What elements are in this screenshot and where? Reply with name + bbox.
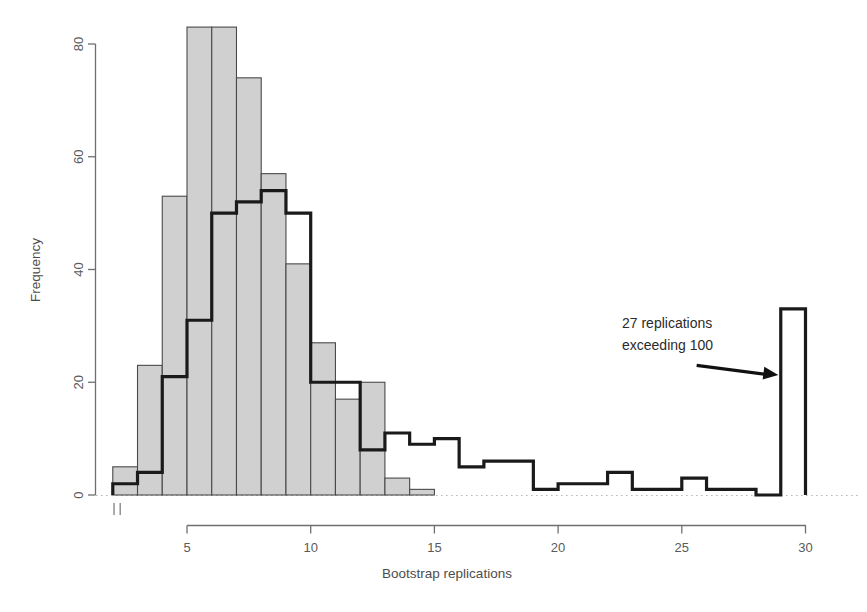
annotation-line-1: 27 replications [622,315,712,331]
y-tick-label: 40 [71,262,86,276]
histogram-bar [261,174,286,495]
histogram-bar [335,399,360,495]
histogram-bar [187,27,212,495]
x-tick-label: 5 [183,540,190,555]
annotation-line-2: exceeding 100 [622,337,713,353]
x-tick-label: 25 [675,540,689,555]
annotation-arrow-shaft [697,365,772,375]
annotation-arrow-icon [697,365,779,379]
histogram-bar [385,478,410,495]
annotation-group: 27 replications exceeding 100 [622,315,778,380]
y-tick-label: 80 [71,37,86,51]
y-tick-label: 60 [71,150,86,164]
histogram-figure: 020406080 51015202530 Frequency Bootstra… [0,0,867,612]
histogram-bar [360,382,385,495]
histogram-bar [236,78,261,495]
y-axis: 020406080 [71,37,96,499]
y-tick-label: 20 [71,375,86,389]
x-axis-title: Bootstrap replications [382,566,512,581]
x-tick-label: 20 [551,540,565,555]
y-axis-title: Frequency [28,238,43,302]
x-axis: 51015202530 [183,526,812,556]
histogram-bar [212,27,237,495]
histogram-bar [138,365,163,495]
histogram-plot: 020406080 51015202530 Frequency Bootstra… [0,0,867,612]
x-tick-label: 30 [798,540,812,555]
x-tick-label: 10 [303,540,317,555]
rug-marks [114,503,120,515]
y-tick-label: 0 [71,491,86,498]
histogram-bar [113,467,138,495]
x-tick-label: 15 [427,540,441,555]
histogram-bar [311,343,336,495]
annotation-arrow-head [763,367,779,380]
histogram-bar [410,489,435,495]
histogram-bar [286,264,311,495]
histogram-bar [162,196,187,495]
